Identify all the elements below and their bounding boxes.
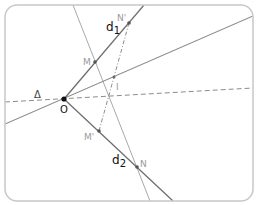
point-m-prime [97, 129, 101, 133]
line-through-m-n [73, 5, 150, 201]
point-n-prime [127, 21, 131, 25]
label-i: I [116, 82, 119, 92]
point-m [93, 60, 97, 64]
label-n: N [140, 159, 147, 169]
delta-axis-line [5, 88, 253, 102]
d2-line [64, 99, 173, 201]
label-delta: Δ [34, 89, 41, 100]
label-m: M [83, 57, 91, 67]
label-o: O [60, 104, 68, 115]
line-through-o-i [5, 16, 253, 124]
figure-frame [5, 5, 253, 201]
point-n [135, 165, 139, 169]
geometry-figure: d1 N' M I Δ O M' d2 N [0, 0, 258, 205]
label-n-prime: N' [117, 13, 126, 23]
label-m-prime: M' [84, 132, 94, 142]
point-i [113, 76, 116, 79]
point-o [61, 96, 66, 101]
